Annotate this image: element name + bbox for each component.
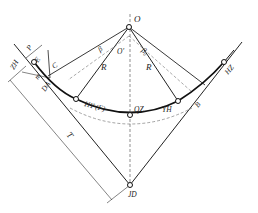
- point-YH: [176, 99, 181, 104]
- tangent-line-left: [14, 44, 130, 185]
- diagram-svg: O O' β β₀ R R C P E m DA ZH HY (F) QZ YH…: [0, 0, 258, 213]
- point-O: [127, 25, 132, 30]
- curve-geometry-diagram: O O' β β₀ R R C P E m DA ZH HY (F) QZ YH…: [0, 0, 258, 213]
- label-QZ: QZ: [134, 105, 144, 114]
- label-JD: JD: [128, 190, 137, 199]
- point-QZ: [128, 113, 133, 118]
- label-O-prime: O': [117, 47, 124, 56]
- radius-line-R-right: [129, 27, 178, 101]
- label-beta-right: β₀: [139, 45, 151, 57]
- label-P: P: [24, 43, 35, 53]
- dimension-tick: [107, 185, 130, 203]
- label-O: O: [134, 14, 141, 24]
- radius-line: [129, 27, 205, 85]
- point-HZ: [222, 60, 227, 65]
- dashed-line: [129, 36, 192, 92]
- label-R-right: R: [145, 62, 152, 72]
- label-B: B: [193, 100, 203, 110]
- label-T: T: [64, 130, 76, 141]
- label-beta-left: β: [95, 44, 104, 54]
- point-HY: [74, 97, 79, 102]
- dimension-line-T: [10, 80, 112, 200]
- label-C: C: [50, 60, 60, 71]
- point-JD: [128, 183, 133, 188]
- label-HY-F: HY (F): [83, 99, 107, 114]
- label-YH: YH: [162, 105, 172, 114]
- label-R-left: R: [100, 62, 107, 72]
- label-ZH: ZH: [8, 58, 21, 71]
